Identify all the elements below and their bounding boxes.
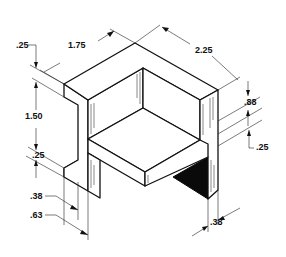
dim-label-height: 1.50 bbox=[25, 112, 43, 121]
dim-label-depth: 1.75 bbox=[68, 41, 86, 50]
dim-label-right-leg: .38 bbox=[210, 218, 223, 227]
dim-label-right-height: .88 bbox=[244, 98, 257, 107]
left-wall-front-face bbox=[64, 84, 88, 191]
dim-label-shelf-thickness: .25 bbox=[32, 151, 45, 160]
dim-label-right-shelf-thickness: .25 bbox=[256, 143, 269, 152]
dim-label-width: 2.25 bbox=[195, 46, 213, 55]
isometric-bracket-drawing bbox=[0, 0, 286, 257]
dim-label-leg-outer: .63 bbox=[30, 211, 43, 220]
dim-label-leg-inner: .38 bbox=[30, 192, 43, 201]
dim-label-top-thickness: .25 bbox=[16, 41, 29, 50]
